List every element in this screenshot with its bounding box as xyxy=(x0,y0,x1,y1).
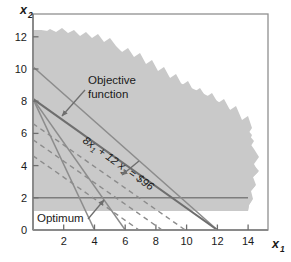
x-tick-label: 10 xyxy=(180,235,192,247)
linear-programming-figure: 2 4 6 8 10 12 14 0 2 4 6 8 10 12 x 2 x 1 xyxy=(0,0,291,262)
y-axis-label-text: x xyxy=(19,3,28,17)
x-tick-label: 4 xyxy=(91,235,97,247)
y-tick-labels: 0 2 4 6 8 10 12 xyxy=(15,31,27,236)
y-tick-label: 0 xyxy=(21,224,27,236)
x-tick-label: 6 xyxy=(122,235,128,247)
x-axis-label: x 1 xyxy=(271,237,285,254)
x-axis-label-text: x xyxy=(271,237,280,251)
y-tick-label: 6 xyxy=(21,127,27,139)
x-tick-label: 14 xyxy=(242,235,254,247)
x-tick-label: 2 xyxy=(61,235,67,247)
x-tick-labels: 2 4 6 8 10 12 14 xyxy=(61,235,255,247)
graph-canvas: 2 4 6 8 10 12 14 0 2 4 6 8 10 12 x 2 x 1 xyxy=(0,0,291,262)
y-axis-label-sub: 2 xyxy=(27,10,33,20)
y-axis-label: x 2 xyxy=(19,3,33,20)
y-tick-label: 10 xyxy=(15,63,27,75)
optimum-callout-text: Optimum xyxy=(37,212,84,224)
x-tick-label: 12 xyxy=(211,235,223,247)
objective-callout-line1: Objective xyxy=(88,74,136,86)
y-tick-label: 12 xyxy=(15,31,27,43)
y-tick-label: 8 xyxy=(21,95,27,107)
x-axis-label-sub: 1 xyxy=(280,244,285,254)
y-tick-label: 2 xyxy=(21,192,27,204)
objective-callout-line2: function xyxy=(88,88,128,100)
y-tick-label: 4 xyxy=(21,160,27,172)
x-tick-label: 8 xyxy=(153,235,159,247)
